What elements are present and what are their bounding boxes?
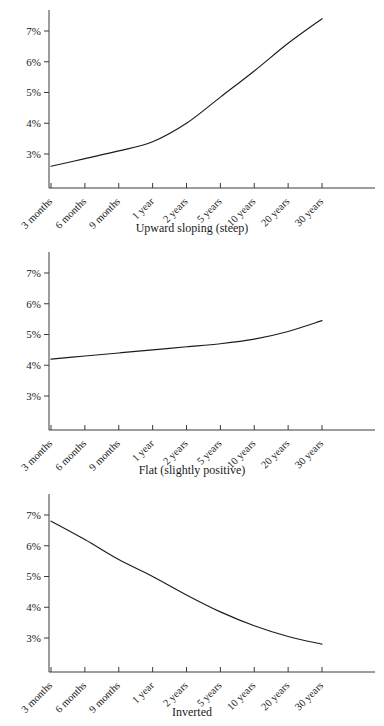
y-tick-label: 5% — [26, 86, 41, 98]
x-tick-label: 20 years — [259, 438, 292, 471]
x-tick-label: 6 months — [53, 438, 88, 473]
x-tick-label: 9 months — [87, 196, 122, 231]
line-chart-flat: 7%6%5%4%3%3 months6 months9 months1 year… — [0, 242, 384, 484]
y-tick-label: 7% — [26, 509, 41, 521]
x-tick-label: 30 years — [293, 680, 326, 713]
x-tick-label: 3 months — [19, 438, 54, 473]
x-tick-label: 6 months — [53, 680, 88, 715]
chart-block-0: 7%6%5%4%3%3 months6 months9 months1 year… — [0, 0, 384, 242]
y-tick-label: 7% — [26, 267, 41, 279]
x-tick-label: 30 years — [293, 196, 326, 229]
x-tick-label: 6 months — [53, 196, 88, 231]
chart-block-2: 7%6%5%4%3%3 months6 months9 months1 year… — [0, 484, 384, 726]
x-tick-label: 10 years — [225, 680, 258, 713]
y-tick-label: 5% — [26, 328, 41, 340]
x-tick-label: 1 year — [130, 679, 156, 705]
y-tick-label: 3% — [26, 632, 41, 644]
x-tick-label: 9 months — [87, 438, 122, 473]
x-tick-label: 1 year — [130, 195, 156, 221]
x-tick-label: 3 months — [19, 196, 54, 231]
series-line — [51, 19, 322, 167]
chart-caption: Upward sloping (steep) — [136, 221, 249, 235]
x-tick-label: 30 years — [293, 438, 326, 471]
yield-curve-figure: 7%6%5%4%3%3 months6 months9 months1 year… — [0, 0, 384, 726]
y-tick-label: 6% — [26, 298, 41, 310]
x-tick-label: 1 year — [130, 437, 156, 463]
x-tick-label: 9 months — [87, 680, 122, 715]
chart-caption: Inverted — [172, 705, 212, 719]
series-line — [51, 521, 322, 644]
y-tick-label: 4% — [26, 117, 41, 129]
chart-caption: Flat (slightly positive) — [139, 463, 246, 477]
y-tick-label: 5% — [26, 570, 41, 582]
y-tick-label: 7% — [26, 25, 41, 37]
y-tick-label: 4% — [26, 601, 41, 613]
line-chart-inverted: 7%6%5%4%3%3 months6 months9 months1 year… — [0, 484, 384, 726]
x-tick-label: 20 years — [259, 680, 292, 713]
x-tick-label: 20 years — [259, 196, 292, 229]
series-line — [51, 321, 322, 359]
y-tick-label: 3% — [26, 148, 41, 160]
y-tick-label: 6% — [26, 56, 41, 68]
y-tick-label: 6% — [26, 540, 41, 552]
x-tick-label: 3 months — [19, 680, 54, 715]
line-chart-upward-sloping: 7%6%5%4%3%3 months6 months9 months1 year… — [0, 0, 384, 242]
chart-block-1: 7%6%5%4%3%3 months6 months9 months1 year… — [0, 242, 384, 484]
y-tick-label: 3% — [26, 390, 41, 402]
y-tick-label: 4% — [26, 359, 41, 371]
